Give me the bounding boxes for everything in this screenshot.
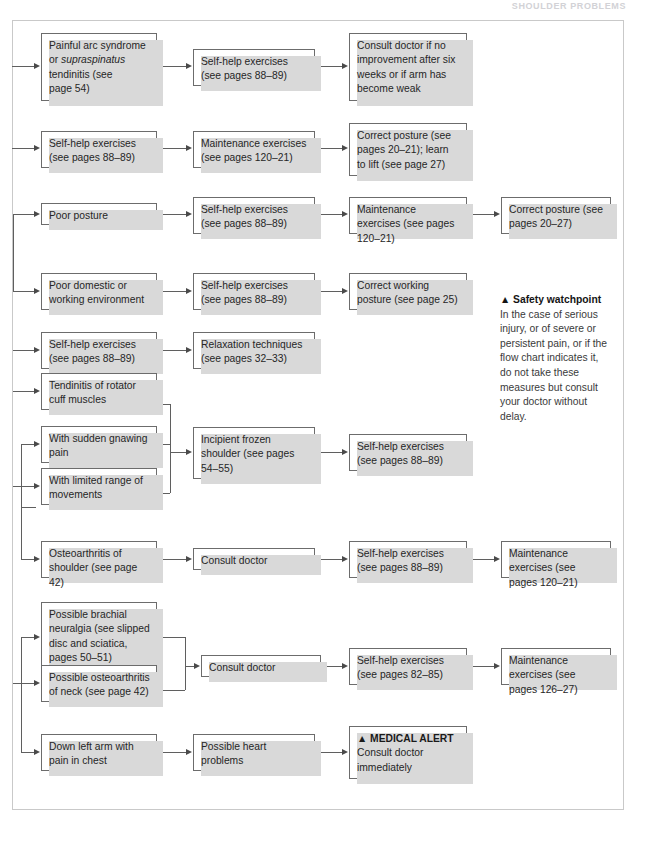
flow-node-n14[interactable]: Self-help exercises (see pages 88–89)	[41, 332, 157, 369]
arrow-head	[186, 63, 192, 69]
flow-node-n5[interactable]: Maintenance exercises (see pages 120–21)	[193, 131, 315, 168]
node-line: Painful arc syndrome	[49, 40, 146, 51]
arrow-head	[34, 388, 40, 394]
node-line: tendinitis (see	[49, 69, 113, 80]
flow-node-n11[interactable]: Poor domestic or working environment	[41, 273, 157, 310]
connector	[13, 391, 36, 392]
arrow-head	[186, 145, 192, 151]
note-body: In the case of serious injury, or of sev…	[500, 309, 607, 422]
connector	[21, 444, 22, 507]
connector	[13, 486, 36, 487]
flow-node-n8[interactable]: Self-help exercises (see pages 88–89)	[193, 197, 315, 234]
arrow-head	[342, 288, 348, 294]
arrow-head	[34, 680, 40, 686]
flow-node-n25[interactable]: Possible brachial neuralgia (see slipped…	[41, 602, 157, 670]
flow-node-n32-medical-alert[interactable]: ▲ MEDICAL ALERT Consult doctor immediate…	[349, 726, 467, 779]
flow-node-n6[interactable]: Correct posture (see pages 20–21); learn…	[349, 123, 467, 176]
connector	[21, 637, 22, 752]
arrow-head	[34, 347, 40, 353]
note-marker: ▲	[500, 294, 510, 305]
flow-node-n23[interactable]: Self-help exercises (see pages 88–89)	[349, 541, 467, 578]
arrow-head	[186, 449, 192, 455]
arrow-head	[494, 211, 500, 217]
flow-node-n28[interactable]: Self-help exercises (see pages 82–85)	[349, 648, 467, 685]
arrow-head	[342, 556, 348, 562]
connector	[12, 66, 36, 67]
arrow-head	[342, 145, 348, 151]
flow-node-n18[interactable]: With limited range of movements	[41, 468, 157, 505]
flow-node-n31[interactable]: Possible heart problems	[193, 734, 315, 771]
connector	[13, 214, 36, 215]
arrow-head	[34, 288, 40, 294]
arrow-head	[34, 483, 40, 489]
arrow-head	[194, 663, 200, 669]
node-line: page 54)	[49, 83, 90, 94]
flow-node-n24[interactable]: Maintenance exercises (see pages 120–21)	[501, 541, 611, 578]
flow-node-n16[interactable]: Tendinitis of rotator cuff muscles	[41, 373, 157, 410]
flow-node-n10[interactable]: Correct posture (see pages 20–27)	[501, 197, 611, 234]
arrow-head	[186, 749, 192, 755]
connector	[13, 683, 36, 684]
arrow-head	[34, 749, 40, 755]
flow-node-n2[interactable]: Self-help exercises (see pages 88–89)	[193, 49, 315, 86]
flow-node-n12[interactable]: Self-help exercises (see pages 88–89)	[193, 273, 315, 310]
connector	[170, 452, 187, 453]
arrow-head	[342, 63, 348, 69]
flow-node-n20[interactable]: Self-help exercises (see pages 88–89)	[349, 434, 467, 471]
arrow-head	[34, 634, 40, 640]
arrow-head	[34, 441, 40, 447]
note-title: Safety watchpoint	[513, 294, 601, 305]
arrow-head	[186, 347, 192, 353]
connector	[21, 507, 36, 508]
arrow-head	[494, 556, 500, 562]
flow-node-n19[interactable]: Incipient frozen shoulder (see pages 54–…	[193, 427, 315, 479]
medical-alert-body: Consult doctor immediately	[357, 747, 423, 772]
connector	[13, 214, 14, 291]
arrow-head	[342, 749, 348, 755]
arrow-head	[186, 211, 192, 217]
flow-node-n9[interactable]: Maintenance exercises (see pages 120–21)	[349, 197, 467, 234]
arrow-head	[186, 556, 192, 562]
medical-alert-heading: ▲ MEDICAL ALERT	[357, 733, 454, 744]
connector	[12, 148, 36, 149]
flow-node-n13[interactable]: Correct working posture (see page 25)	[349, 273, 467, 310]
flow-node-n21[interactable]: Osteoarthritis of shoulder (see page 42)	[41, 541, 157, 578]
flow-node-n3[interactable]: Consult doctor if no improvement after s…	[349, 33, 467, 101]
flow-node-n1[interactable]: Painful arc syndrome or supraspinatus te…	[41, 33, 157, 101]
flow-node-n30[interactable]: Down left arm with pain in chest	[41, 734, 157, 771]
running-header: SHOULDER PROBLEMS	[512, 1, 626, 11]
arrow-head	[342, 449, 348, 455]
arrow-head	[34, 145, 40, 151]
arrow-head	[34, 211, 40, 217]
flow-node-n27[interactable]: Consult doctor	[201, 655, 321, 677]
connector	[13, 291, 36, 292]
flow-node-n22[interactable]: Consult doctor	[193, 548, 315, 570]
arrow-head	[494, 663, 500, 669]
safety-watchpoint-note: ▲ Safety watchpoint In the case of serio…	[500, 293, 610, 424]
flow-node-n29[interactable]: Maintenance exercises (see pages 126–27)	[501, 648, 611, 685]
flow-node-n15[interactable]: Relaxation techniques (see pages 32–33)	[193, 332, 315, 369]
flow-node-n7[interactable]: Poor posture	[41, 203, 157, 225]
arrow-head	[34, 556, 40, 562]
flowchart-page: SHOULDER PROBLEMS Painful arc syndrome o…	[0, 0, 654, 850]
flow-node-n4[interactable]: Self-help exercises (see pages 88–89)	[41, 131, 157, 168]
connector	[170, 404, 171, 493]
flow-node-n26[interactable]: Possible osteoarthritis of neck (see pag…	[41, 665, 157, 702]
arrow-head	[342, 211, 348, 217]
connector	[13, 350, 36, 351]
arrow-head	[186, 288, 192, 294]
connector	[21, 507, 22, 559]
node-line: or	[49, 54, 61, 65]
flow-node-n17[interactable]: With sudden gnawing pain	[41, 426, 157, 463]
connector	[185, 637, 186, 690]
arrow-head	[34, 63, 40, 69]
node-line-italic: supraspinatus	[61, 54, 125, 65]
arrow-head	[342, 663, 348, 669]
